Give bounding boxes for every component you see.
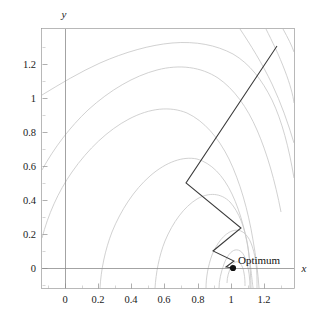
y-axis-ticks [43, 48, 48, 286]
y-tick-labels: 0 0.2 0.4 0.6 0.8 1 1.2 [23, 59, 37, 274]
y-tick-label-0: 0 [31, 263, 36, 274]
y-axis-label: y [61, 8, 67, 20]
x-axis-ticks [49, 284, 282, 289]
contour-tail-c [283, 29, 294, 52]
x-axis-label: x [301, 262, 307, 274]
x-tick-label-3: 0.6 [157, 294, 170, 305]
x-tick-label-0: 0 [62, 294, 67, 305]
contour-level-6 [42, 67, 281, 212]
y-tick-label-3: 0.6 [23, 161, 36, 172]
y-tick-label-6: 1.2 [23, 59, 36, 70]
contour-plot-figure: 0 0.2 0.4 0.6 0.8 1 1.2 0 0.2 0.4 0.6 0.… [0, 0, 321, 326]
x-tick-labels: 0 0.2 0.4 0.6 0.8 1 1.2 [62, 294, 270, 305]
x-tick-label-1: 0.2 [91, 294, 104, 305]
y-tick-label-4: 0.8 [23, 127, 36, 138]
optimum-label: Optimum [238, 254, 281, 266]
x-tick-label-5: 1 [228, 294, 233, 305]
y-tick-label-2: 0.4 [23, 195, 37, 206]
y-tick-label-5: 1 [31, 93, 36, 104]
contour-level-3 [155, 194, 251, 288]
contour-group [42, 29, 294, 288]
plot-svg: 0 0.2 0.4 0.6 0.8 1 1.2 0 0.2 0.4 0.6 0.… [0, 0, 321, 326]
y-tick-label-1: 0.2 [23, 229, 36, 240]
path-group [186, 46, 277, 268]
x-tick-label-4: 0.8 [191, 294, 204, 305]
x-tick-label-6: 1.2 [257, 294, 270, 305]
contour-tail-a [266, 29, 294, 103]
contour-level-7 [42, 42, 294, 178]
optimization-path [186, 46, 277, 268]
optimum-marker [230, 265, 236, 271]
x-tick-label-2: 0.4 [124, 294, 138, 305]
contour-tail-b [240, 29, 294, 143]
